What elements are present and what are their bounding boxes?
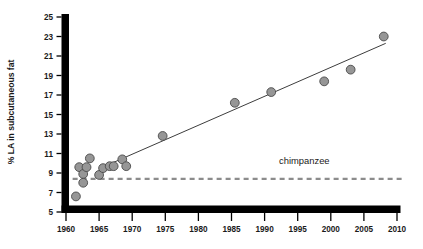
x-tick-label: 1995 bbox=[289, 225, 308, 234]
x-tick-label: 1990 bbox=[255, 225, 274, 234]
x-tick-label: 1970 bbox=[123, 225, 142, 234]
x-tick-label: 2005 bbox=[355, 225, 374, 234]
y-tick-label: 9 bbox=[48, 169, 53, 178]
data-point bbox=[79, 178, 88, 187]
regression-trend-line bbox=[100, 43, 385, 168]
x-tick-label: 2000 bbox=[322, 225, 341, 234]
data-point bbox=[72, 192, 81, 201]
data-point bbox=[230, 98, 239, 107]
y-tick-label: 13 bbox=[44, 130, 54, 139]
x-tick-label: 1965 bbox=[90, 225, 109, 234]
y-tick-marks bbox=[57, 17, 62, 212]
data-point bbox=[267, 88, 276, 97]
trend-line bbox=[100, 43, 385, 168]
x-tick-label: 1985 bbox=[222, 225, 241, 234]
x-tick-labels: 1960196519701975198019851990199520002005… bbox=[57, 225, 407, 234]
y-tick-label: 17 bbox=[44, 91, 54, 100]
data-point bbox=[122, 162, 131, 171]
x-axis-bar bbox=[62, 206, 401, 214]
scatter-plot: 5791113151719212325 19601965197019751980… bbox=[0, 0, 423, 249]
y-axis-title: % LA in subcutaneous fat bbox=[6, 60, 16, 165]
y-tick-label: 7 bbox=[48, 189, 53, 198]
y-tick-label: 5 bbox=[48, 208, 53, 217]
y-tick-label: 19 bbox=[44, 72, 54, 81]
chart-container: 5791113151719212325 19601965197019751980… bbox=[0, 0, 423, 249]
annotations: chimpanzee bbox=[279, 155, 330, 166]
y-axis-bar bbox=[62, 14, 70, 213]
data-point bbox=[109, 162, 118, 171]
data-points bbox=[72, 32, 389, 201]
annotation-label: chimpanzee bbox=[279, 155, 330, 166]
y-tick-label: 21 bbox=[44, 52, 54, 61]
x-tick-label: 1980 bbox=[189, 225, 208, 234]
x-tick-marks bbox=[66, 213, 397, 221]
y-tick-label: 15 bbox=[44, 111, 54, 120]
data-point bbox=[82, 163, 91, 172]
y-tick-label: 23 bbox=[44, 33, 54, 42]
data-point bbox=[85, 154, 94, 163]
data-point bbox=[158, 132, 167, 141]
y-tick-labels: 5791113151719212325 bbox=[44, 13, 54, 217]
y-tick-label: 11 bbox=[44, 150, 53, 159]
data-point bbox=[379, 32, 388, 41]
x-tick-label: 1975 bbox=[156, 225, 175, 234]
y-tick-label: 25 bbox=[44, 13, 54, 22]
x-tick-label: 1960 bbox=[57, 225, 76, 234]
data-point bbox=[346, 65, 355, 74]
x-tick-label: 2010 bbox=[388, 225, 407, 234]
data-point bbox=[320, 77, 329, 86]
